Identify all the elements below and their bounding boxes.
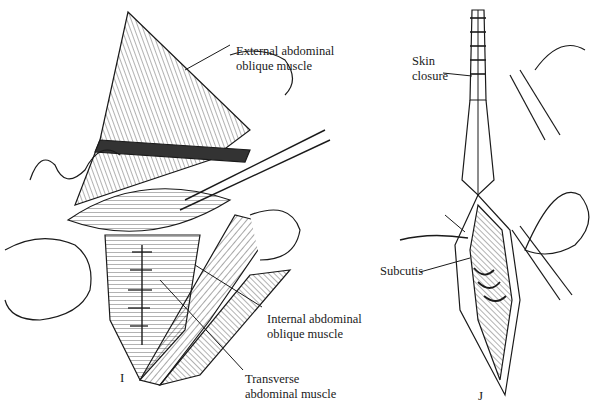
panel-letter-j: J	[478, 388, 483, 404]
panel-letter-i: I	[120, 370, 124, 386]
label-skin-closure: Skin closure	[412, 54, 448, 84]
label-transverse: Transverse abdominal muscle	[245, 372, 336, 402]
label-internal-oblique: Internal abdominal oblique muscle	[267, 312, 362, 342]
label-subcutis: Subcutis	[380, 264, 423, 279]
label-external-oblique: External abdominal oblique muscle	[236, 44, 334, 74]
